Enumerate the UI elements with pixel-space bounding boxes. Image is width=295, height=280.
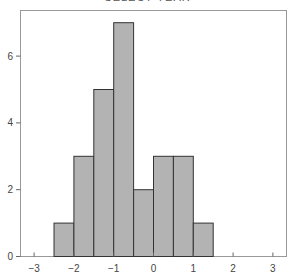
histogram-bar [74,156,94,256]
x-tick-label: −3 [28,263,40,274]
histogram-chart: −3−2−10123 0246 [0,0,295,280]
histogram-bar [173,156,193,256]
y-tick-label: 4 [7,117,13,128]
histogram-bar [94,90,114,257]
x-tick-label: −1 [108,263,120,274]
x-tick-label: 2 [230,263,236,274]
histogram-bar [54,223,74,256]
y-tick-label: 2 [7,184,13,195]
histogram-bar [134,190,154,257]
y-tick-label: 6 [7,51,13,62]
histogram-bar [114,23,134,257]
y-axis: 0246 [7,51,20,262]
histogram-bar [154,156,174,256]
x-tick-label: 3 [270,263,276,274]
x-tick-label: 0 [151,263,157,274]
histogram-bars [54,23,213,257]
x-tick-label: 1 [191,263,197,274]
histogram-bar [193,223,213,256]
x-tick-label: −2 [68,263,80,274]
y-tick-label: 0 [7,251,13,262]
